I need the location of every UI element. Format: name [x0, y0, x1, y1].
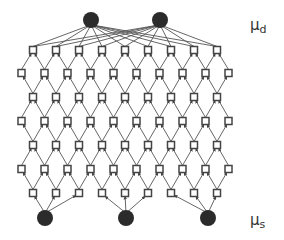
hidden-node-box	[191, 47, 198, 54]
hidden-node-box	[145, 142, 152, 149]
edge	[175, 195, 209, 213]
hidden-node-box	[41, 70, 48, 77]
hidden-node-box	[145, 94, 152, 101]
hidden-node-box	[225, 166, 232, 173]
edge	[173, 54, 183, 70]
hidden-node-box	[156, 70, 163, 77]
edge	[217, 173, 227, 190]
hidden-node-box	[76, 190, 83, 197]
mu-d-label: μd	[250, 18, 267, 35]
edge	[58, 101, 68, 118]
edge	[56, 77, 66, 94]
edge	[91, 54, 101, 70]
edge	[207, 173, 217, 190]
edge	[160, 149, 170, 166]
edge	[137, 149, 147, 166]
edge	[22, 54, 32, 70]
hidden-node-box	[133, 166, 140, 173]
edge	[207, 125, 217, 142]
edge	[194, 173, 204, 190]
edge	[58, 149, 68, 166]
edge	[127, 54, 137, 70]
edge	[56, 125, 66, 142]
edge	[171, 173, 181, 190]
edge	[217, 77, 227, 94]
edge	[184, 77, 194, 94]
edge	[196, 149, 206, 166]
hidden-node-box	[87, 118, 94, 125]
edge	[102, 125, 112, 142]
hidden-node-box	[53, 190, 60, 197]
edge	[45, 54, 55, 70]
edge	[104, 54, 114, 70]
network-diagram: μd μs	[0, 0, 284, 240]
edge	[69, 125, 79, 142]
hidden-node-box	[168, 142, 175, 149]
hidden-node-box	[122, 190, 129, 197]
edge	[79, 125, 89, 142]
edge	[58, 54, 68, 70]
edge	[56, 173, 66, 190]
edge	[219, 54, 229, 70]
hidden-node-box	[41, 118, 48, 125]
hidden-node-box	[225, 118, 232, 125]
edge	[160, 101, 170, 118]
hidden-node-box	[53, 142, 60, 149]
edge	[206, 54, 216, 70]
edge	[125, 77, 135, 94]
edge	[206, 101, 216, 118]
hidden-node-box	[64, 118, 71, 125]
hidden-node-box	[64, 70, 71, 77]
edge	[161, 77, 171, 94]
mu-s-label: μs	[250, 213, 265, 230]
edge	[35, 101, 45, 118]
edge	[68, 54, 78, 70]
hidden-node-box	[214, 190, 221, 197]
hidden-node-box	[99, 142, 106, 149]
hidden-node-box	[133, 118, 140, 125]
hidden-node-box	[122, 47, 129, 54]
hidden-node-box	[76, 47, 83, 54]
edge	[138, 125, 148, 142]
edge	[79, 77, 89, 94]
hidden-node-box	[30, 190, 37, 197]
edge	[194, 77, 204, 94]
edge	[138, 173, 148, 190]
edge	[125, 173, 135, 190]
hidden-node-box	[202, 70, 209, 77]
hidden-node-box	[110, 70, 117, 77]
lattice-graph	[0, 0, 284, 240]
hidden-node-box	[30, 94, 37, 101]
edge	[91, 149, 101, 166]
edge	[115, 77, 125, 94]
hidden-node-box	[225, 70, 232, 77]
hidden-node-box	[168, 94, 175, 101]
edge	[115, 125, 125, 142]
edge	[173, 101, 183, 118]
hidden-node-box	[145, 190, 152, 197]
edge	[114, 149, 124, 166]
hidden-node-box	[30, 47, 37, 54]
edge	[148, 173, 158, 190]
edge	[206, 149, 216, 166]
hidden-node-box	[179, 70, 186, 77]
hidden-node-box	[122, 94, 129, 101]
hidden-node-box	[168, 190, 175, 197]
edge	[184, 125, 194, 142]
hidden-node-box	[64, 166, 71, 173]
edge	[22, 149, 32, 166]
hidden-node-box	[18, 118, 25, 125]
edge	[23, 173, 33, 190]
input-node-circle	[118, 210, 134, 226]
edge	[33, 125, 43, 142]
edge	[92, 77, 102, 94]
hidden-node-box	[156, 118, 163, 125]
edge	[173, 149, 183, 166]
output-node-circle	[83, 12, 99, 28]
hidden-node-box	[133, 70, 140, 77]
edge	[104, 149, 114, 166]
edge	[150, 54, 160, 70]
edge	[92, 173, 102, 190]
edge	[171, 77, 181, 94]
subscript-d: d	[260, 23, 267, 36]
